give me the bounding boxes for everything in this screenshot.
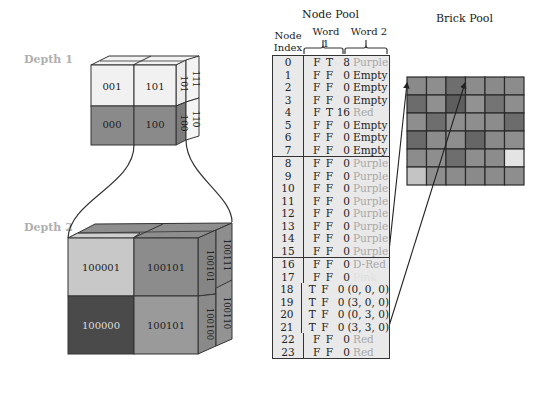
table-row: 23F F0Red <box>273 346 389 359</box>
brick-cell <box>505 95 525 113</box>
node-index: 6 <box>273 131 304 144</box>
node-index: 2 <box>273 81 304 94</box>
table-row: 19T F0(3, 0, 0) <box>273 296 389 309</box>
word1-pointer: 0 <box>336 232 353 245</box>
cube-side-label: 111 <box>191 70 201 87</box>
table-row: 16F F0D-Red <box>273 258 389 271</box>
word1-flags: F F <box>304 94 336 107</box>
brick-cell <box>407 131 427 149</box>
cube-side-label: 100 <box>179 114 189 131</box>
node-index: 1 <box>273 69 304 82</box>
table-row: 4F T16Red <box>273 106 389 119</box>
word1-flags: F F <box>304 207 336 220</box>
brick-cell <box>407 95 427 113</box>
table-row: 1F F0Empty <box>273 69 389 82</box>
word2-value: (3, 0, 0) <box>347 296 389 309</box>
brick-cell <box>505 167 525 185</box>
table-row: 0F T8Purple <box>273 56 389 69</box>
node-group-2: 16F F0D-Red17F F0Pink18T F0(0, 0, 0)19T … <box>273 257 389 358</box>
table-row: 15F F0Purple <box>273 245 389 258</box>
word1-pointer: 0 <box>336 333 353 346</box>
brick-cell <box>407 113 427 131</box>
word1-flags: F F <box>304 245 336 258</box>
depth-2-cube: 100001 100101 100000 100101 100101 10011… <box>68 223 232 354</box>
brick-cell <box>505 131 525 149</box>
word2-value: (0, 3, 0) <box>347 308 389 321</box>
word1-flags: F F <box>304 81 336 94</box>
brick-cell <box>466 149 486 167</box>
node-index: 21 <box>273 321 302 334</box>
word2-value: Red <box>353 106 389 119</box>
word1-pointer: 0 <box>331 308 347 321</box>
word1-pointer: 0 <box>336 131 353 144</box>
table-row: 6F F0Empty <box>273 131 389 144</box>
node-index: 11 <box>273 195 304 208</box>
cube-cell-label: 100101 <box>147 262 185 273</box>
node-index: 13 <box>273 220 304 233</box>
table-row: 11F F0Purple <box>273 195 389 208</box>
word1-pointer: 0 <box>336 220 353 233</box>
word1-flags: F F <box>304 170 336 183</box>
cube-side-label: 100111 <box>222 239 232 271</box>
node-index: 9 <box>273 170 304 183</box>
word1-pointer: 8 <box>336 56 353 69</box>
table-row: 12F F0Purple <box>273 207 389 220</box>
table-row: 13F F0Purple <box>273 220 389 233</box>
word1-pointer: 0 <box>331 283 347 296</box>
word2-value: Empty <box>353 69 389 82</box>
brick-cell <box>446 113 466 131</box>
cube-cell-label: 001 <box>102 81 121 92</box>
word2-value: Empty <box>353 131 389 144</box>
word2-value: (3, 3, 0) <box>347 321 389 334</box>
word1-flags: T F <box>302 283 332 296</box>
word1-flags: F T <box>304 106 336 119</box>
brick-cell <box>427 131 447 149</box>
node-index: 18 <box>273 283 302 296</box>
word1-pointer: 0 <box>336 157 353 170</box>
word1-pointer: 0 <box>336 245 353 258</box>
cube-side-label: 100101 <box>205 250 215 282</box>
word2-value: Purple <box>353 220 389 233</box>
word1-flags: F F <box>304 258 336 271</box>
word1-pointer: 0 <box>336 170 353 183</box>
word1-flags: F F <box>304 144 336 157</box>
word1-flags: F F <box>304 195 336 208</box>
node-index: 4 <box>273 106 304 119</box>
node-index: 19 <box>273 296 302 309</box>
word1-pointer: 0 <box>331 296 347 309</box>
word1-pointer: 0 <box>336 207 353 220</box>
table-row: 10F F0Purple <box>273 182 389 195</box>
word1-pointer: 0 <box>336 195 353 208</box>
node-group-1: 8F F0Purple9F F0Purple10F F0Purple11F F0… <box>273 156 389 257</box>
brick-cell <box>446 149 466 167</box>
word2-value: Purple <box>353 157 389 170</box>
brick-cell <box>446 95 466 113</box>
connector-right <box>186 140 232 222</box>
table-row: 17F F0Pink <box>273 271 389 284</box>
word1-flags: F T <box>304 56 336 69</box>
word1-pointer: 0 <box>336 81 353 94</box>
word-braces <box>304 40 387 54</box>
cube-cell-label: 100101 <box>147 320 185 331</box>
cube-side-label: 101 <box>179 75 189 92</box>
brick-cell <box>466 131 486 149</box>
table-row: 9F F0Purple <box>273 170 389 183</box>
word1-flags: F F <box>304 220 336 233</box>
word1-flags: T F <box>302 321 332 334</box>
word2-value: Red <box>353 346 389 359</box>
brick-cell <box>485 77 505 95</box>
node-index: 8 <box>273 157 304 170</box>
cube-cell-label: 100001 <box>82 262 120 273</box>
brick-cell <box>485 167 505 185</box>
cube-side-label: 110 <box>191 110 201 127</box>
table-row: 8F F0Purple <box>273 157 389 170</box>
cube-cell-label: 100 <box>145 119 164 130</box>
brick-cell <box>466 77 486 95</box>
node-group-0: 0F T8Purple1F F0Empty2F F0Empty3F F0Empt… <box>273 56 389 156</box>
brick-cell <box>505 149 525 167</box>
brick-cell <box>466 167 486 185</box>
depth-1-cube: 001 101 000 100 101 111 100 110 <box>91 56 201 145</box>
word1-pointer: 0 <box>336 258 353 271</box>
node-index: 14 <box>273 232 304 245</box>
word2-value: Purple <box>353 232 389 245</box>
